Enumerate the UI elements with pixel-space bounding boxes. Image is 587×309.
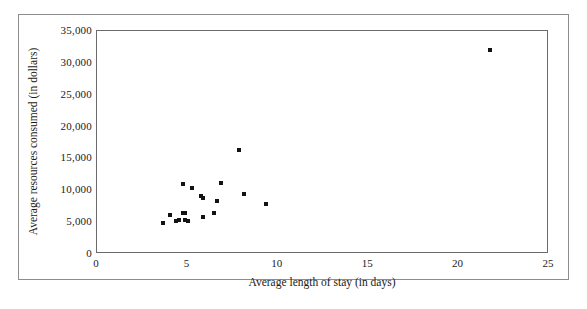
data-point	[237, 148, 241, 152]
data-point	[488, 48, 492, 52]
data-point	[264, 202, 268, 206]
x-tick-label: 10	[257, 258, 297, 269]
data-point	[168, 213, 172, 217]
x-axis-ticks: 0510152025	[96, 258, 548, 274]
data-point	[215, 199, 219, 203]
x-tick-label: 15	[347, 258, 387, 269]
data-point	[186, 219, 190, 223]
x-tick-label: 5	[166, 258, 206, 269]
data-point	[219, 181, 223, 185]
data-point	[190, 186, 194, 190]
data-point	[201, 215, 205, 219]
data-point	[201, 196, 205, 200]
x-tick-label: 20	[438, 258, 478, 269]
x-tick-label: 0	[76, 258, 116, 269]
data-point	[161, 221, 165, 225]
data-point	[177, 218, 181, 222]
data-point	[242, 192, 246, 196]
data-point	[183, 211, 187, 215]
x-axis-label: Average length of stay (in days)	[96, 276, 548, 289]
y-axis-label: Average resources consumed (in dollars)	[27, 27, 40, 257]
figure: 05,00010,00015,00020,00025,00030,00035,0…	[0, 0, 587, 309]
plot-area	[96, 30, 548, 253]
data-point	[212, 211, 216, 215]
x-tick-label: 25	[528, 258, 568, 269]
data-point	[181, 182, 185, 186]
